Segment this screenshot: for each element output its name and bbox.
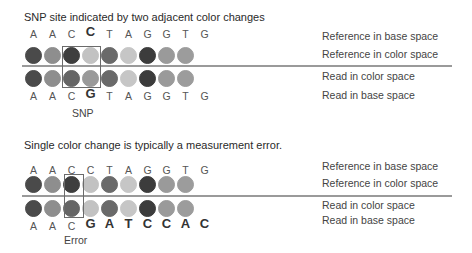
snp-highlight-box <box>62 46 101 88</box>
color-circle <box>120 176 137 193</box>
panel-title: SNP site indicated by two adjacent color… <box>24 11 265 23</box>
color-circle <box>139 47 156 64</box>
color-circle <box>177 176 194 193</box>
color-circle <box>120 200 137 217</box>
label-ref-base: Reference in base space <box>322 160 438 172</box>
base-letter: G <box>81 218 100 230</box>
base-letter: G <box>138 164 157 176</box>
error-highlight-box <box>64 174 84 218</box>
base-letter: A <box>100 218 119 230</box>
base-letter: G <box>195 28 214 40</box>
color-circle <box>101 176 118 193</box>
base-letter: G <box>157 90 176 102</box>
base-letter: T <box>100 90 119 102</box>
color-circle <box>44 70 61 87</box>
color-circle <box>25 176 42 193</box>
color-circle <box>177 47 194 64</box>
color-circle <box>139 200 156 217</box>
color-circle <box>120 47 137 64</box>
base-letter: A <box>24 28 43 40</box>
label-read-color: Read in color space <box>322 70 415 82</box>
label-read-base: Read in base space <box>322 214 415 226</box>
label-ref-color: Reference in color space <box>322 48 438 60</box>
base-letter: A <box>43 90 62 102</box>
base-letter: C <box>195 218 214 230</box>
base-letter: C <box>62 28 81 40</box>
base-letter: G <box>81 88 100 100</box>
panel-title: Single color change is typically a measu… <box>24 139 282 151</box>
base-letter: A <box>119 164 138 176</box>
base-letter: T <box>176 28 195 40</box>
base-letter: A <box>43 220 62 232</box>
base-letter: T <box>176 164 195 176</box>
color-circle <box>177 200 194 217</box>
color-circle <box>101 47 118 64</box>
color-circle <box>158 47 175 64</box>
base-letter: G <box>157 28 176 40</box>
color-circle <box>177 70 194 87</box>
base-letter: A <box>24 164 43 176</box>
color-circle <box>101 200 118 217</box>
base-letter: T <box>100 164 119 176</box>
label-read-color: Read in color space <box>322 199 415 211</box>
color-circle <box>44 47 61 64</box>
base-letter: G <box>195 90 214 102</box>
base-letter: T <box>176 90 195 102</box>
base-letter: G <box>157 164 176 176</box>
color-circle <box>139 70 156 87</box>
base-letter: C <box>157 218 176 230</box>
color-circle <box>158 200 175 217</box>
color-circle <box>44 176 61 193</box>
color-circle <box>25 70 42 87</box>
base-letter: C <box>81 26 100 38</box>
divider-line <box>22 195 452 197</box>
base-letter: A <box>119 90 138 102</box>
base-letter: A <box>176 218 195 230</box>
color-circle <box>139 176 156 193</box>
color-circle <box>44 200 61 217</box>
base-letter: C <box>62 220 81 232</box>
color-circle <box>158 176 175 193</box>
color-circle <box>120 70 137 87</box>
base-letter: G <box>195 164 214 176</box>
error-caption: Error <box>64 234 87 246</box>
base-letter: A <box>24 220 43 232</box>
label-ref-color: Reference in color space <box>322 177 438 189</box>
base-letter: T <box>100 28 119 40</box>
base-letter: C <box>138 218 157 230</box>
label-read-base: Read in base space <box>322 89 415 101</box>
color-circle <box>82 200 99 217</box>
color-circle <box>25 47 42 64</box>
base-letter: A <box>24 90 43 102</box>
snp-caption: SNP <box>72 107 94 119</box>
color-circle <box>158 70 175 87</box>
color-circle <box>101 70 118 87</box>
base-letter: A <box>119 28 138 40</box>
color-circle <box>82 176 99 193</box>
base-letter: A <box>43 28 62 40</box>
base-letter: G <box>138 28 157 40</box>
base-letter: A <box>43 164 62 176</box>
label-ref-base: Reference in base space <box>322 30 438 42</box>
color-circle <box>25 200 42 217</box>
base-letter: T <box>119 218 138 230</box>
base-letter: C <box>62 90 81 102</box>
base-letter: G <box>138 90 157 102</box>
